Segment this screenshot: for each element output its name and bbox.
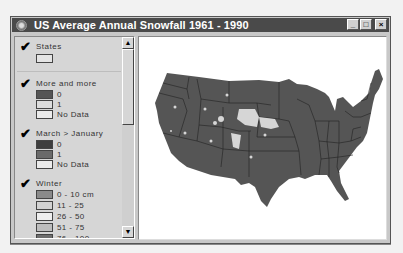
map-view[interactable] — [138, 36, 387, 240]
legend-entry: 0 - 10 cm — [36, 190, 94, 199]
entry-label: 0 - 10 cm — [57, 190, 94, 199]
title-bar[interactable]: US Average Annual Snowfall 1961 - 1990 _… — [12, 18, 389, 32]
swatch — [36, 150, 53, 159]
layer-name: March > January — [36, 129, 103, 138]
checkbox-march-gt-january[interactable]: ✔ — [20, 128, 31, 140]
scroll-down-button[interactable]: ▼ — [122, 226, 134, 238]
swatch — [36, 223, 53, 232]
divider — [10, 244, 391, 245]
window-controls: _ □ × — [347, 19, 387, 30]
legend-entry: 0 — [36, 140, 62, 149]
swatch — [36, 110, 53, 119]
layer-states: ✔ States — [17, 37, 121, 72]
legend-entry: No Data — [36, 110, 89, 119]
legend-entry: 1 — [36, 150, 62, 159]
entry-label: 76 - 100 — [57, 234, 90, 239]
layer-winter: ✔ Winter 0 - 10 cm 11 - 25 26 - 50 51 - … — [17, 176, 121, 239]
app-globe-icon — [16, 20, 27, 31]
close-button[interactable]: × — [375, 19, 387, 30]
map-window: US Average Annual Snowfall 1961 - 1990 _… — [10, 16, 391, 244]
legend-scrollbar[interactable]: ▲ ▼ — [122, 37, 134, 238]
legend-entry — [36, 54, 53, 63]
legend-entry: 76 - 100 — [36, 234, 90, 239]
legend-entry: 11 - 25 — [36, 201, 84, 210]
layer-march-gt-january: ✔ March > January 0 1 No Data — [17, 124, 121, 176]
scroll-thumb[interactable] — [122, 49, 134, 125]
swatch — [36, 201, 53, 210]
legend-entry: 26 - 50 — [36, 212, 85, 221]
layer-more-and-more: ✔ More and more 0 1 No Data — [17, 72, 121, 124]
entry-label: No Data — [57, 160, 89, 169]
swatch — [36, 100, 53, 109]
entry-label: 1 — [57, 150, 62, 159]
legend-entry: 1 — [36, 100, 62, 109]
layer-name: Winter — [36, 179, 62, 188]
layer-name: States — [36, 42, 62, 51]
legend-entry: 51 - 75 — [36, 223, 85, 232]
checkbox-winter[interactable]: ✔ — [20, 178, 31, 190]
swatch — [36, 190, 53, 199]
maximize-button[interactable]: □ — [360, 19, 372, 30]
window-title: US Average Annual Snowfall 1961 - 1990 — [34, 19, 249, 31]
swatch — [36, 234, 53, 239]
swatch — [36, 212, 53, 221]
us-landmass — [155, 69, 383, 207]
checkbox-more-and-more[interactable]: ✔ — [20, 78, 31, 90]
swatch — [36, 140, 53, 149]
swatch — [36, 160, 53, 169]
legend-entry: 0 — [36, 90, 62, 99]
layer-name: More and more — [36, 79, 97, 88]
entry-label: 26 - 50 — [57, 212, 85, 221]
entry-label: 0 — [57, 140, 62, 149]
entry-label: No Data — [57, 110, 89, 119]
scroll-up-button[interactable]: ▲ — [122, 37, 134, 49]
entry-label: 1 — [57, 100, 62, 109]
checkbox-states[interactable]: ✔ — [20, 41, 31, 53]
legend-panel: ✔ States ✔ More and more 0 1 No Data — [14, 36, 135, 239]
swatch — [36, 90, 53, 99]
swatch — [36, 54, 53, 63]
entry-label: 11 - 25 — [57, 201, 84, 210]
entry-label: 0 — [57, 90, 62, 99]
entry-label: 51 - 75 — [57, 223, 85, 232]
legend-entry: No Data — [36, 160, 89, 169]
us-map — [139, 37, 386, 239]
minimize-button[interactable]: _ — [347, 19, 359, 30]
